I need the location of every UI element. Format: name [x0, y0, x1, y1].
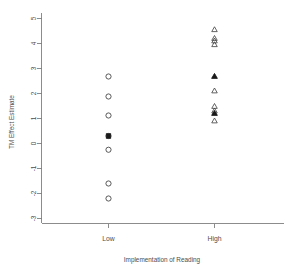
x-axis-title: Implementation of Reading: [124, 256, 201, 264]
y-tick-label: -3: [30, 215, 37, 221]
data-group-low-filled: [106, 134, 111, 139]
y-tick-label: 2: [30, 91, 37, 95]
y-tick-label: 5: [30, 16, 37, 20]
y-tick-label: -1: [30, 165, 37, 171]
y-tick-label: 3: [30, 66, 37, 70]
plot-background: [0, 0, 290, 274]
x-tick-label-high: High: [208, 235, 222, 243]
y-tick-label: 0: [30, 141, 37, 145]
scatter-plot: 5 4 3 2 1 0 -1: [0, 0, 290, 274]
x-tick-label-low: Low: [102, 235, 115, 242]
chart-container: 5 4 3 2 1 0 -1: [0, 0, 290, 274]
data-point-summary: [106, 134, 111, 139]
y-tick-label: -2: [30, 190, 37, 196]
y-tick-label: 4: [30, 41, 37, 45]
y-axis-title: TM Effect Estimate: [8, 95, 15, 149]
y-tick-label: 1: [30, 116, 37, 120]
